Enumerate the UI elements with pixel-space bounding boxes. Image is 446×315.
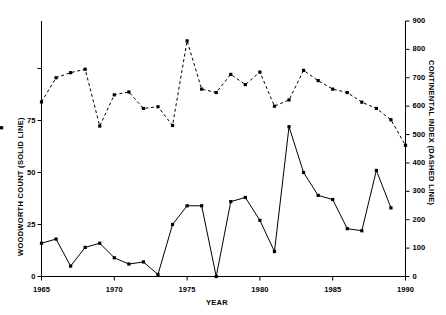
data-point-marker <box>360 101 363 104</box>
data-point-marker <box>171 223 174 226</box>
data-point-marker <box>244 196 247 199</box>
data-point-marker <box>389 206 392 209</box>
left-axis-title: WOODWORTH COUNT (SOLID LINE) <box>16 117 25 256</box>
bottom-tick-label: 1980 <box>244 285 276 294</box>
data-point-marker <box>375 107 378 110</box>
data-point-marker <box>404 144 407 147</box>
data-point-marker <box>302 69 305 72</box>
data-point-marker <box>287 125 290 128</box>
right-axis-ticks <box>406 21 410 277</box>
data-point-marker <box>360 229 363 232</box>
right-axis-title: CONTINENTAL INDEX (DASHED LINE) <box>427 60 436 205</box>
continental-index-line <box>42 41 406 145</box>
data-point-marker <box>40 100 43 103</box>
data-point-marker <box>258 219 261 222</box>
bottom-tick-label: 1990 <box>390 285 422 294</box>
data-point-marker <box>84 246 87 249</box>
data-point-marker <box>215 275 218 278</box>
data-point-marker <box>273 250 276 253</box>
data-point-marker <box>200 88 203 91</box>
data-point-marker <box>54 237 57 240</box>
data-point-marker <box>273 105 276 108</box>
data-point-marker <box>156 273 159 276</box>
data-point-marker <box>54 76 57 79</box>
data-point-marker <box>40 242 43 245</box>
right-tick-label: 0 <box>413 272 446 281</box>
data-point-marker <box>69 265 72 268</box>
data-point-marker <box>0 126 3 129</box>
bottom-tick-label: 1985 <box>317 285 349 294</box>
data-point-marker <box>215 91 218 94</box>
data-point-marker <box>287 98 290 101</box>
data-point-marker <box>346 227 349 230</box>
data-point-marker <box>302 171 305 174</box>
right-tick-label: 900 <box>413 16 446 25</box>
chart-plot-area <box>0 0 446 315</box>
data-point-marker <box>186 39 189 42</box>
data-point-marker <box>229 73 232 76</box>
data-point-marker <box>346 91 349 94</box>
data-point-marker <box>317 194 320 197</box>
bottom-tick-label: 1975 <box>171 285 203 294</box>
data-point-marker <box>389 118 392 121</box>
data-point-marker <box>84 68 87 71</box>
right-tick-label: 800 <box>413 44 446 53</box>
data-point-marker <box>244 83 247 86</box>
left-axis-ticks <box>38 69 42 277</box>
data-point-marker <box>142 260 145 263</box>
bottom-axis-ticks <box>42 277 406 281</box>
data-point-marker <box>258 71 261 74</box>
right-tick-label: 100 <box>413 243 446 252</box>
bottom-tick-label: 1970 <box>98 285 130 294</box>
data-point-marker <box>142 107 145 110</box>
data-point-marker <box>113 256 116 259</box>
left-tick-label: 0 <box>0 272 36 281</box>
data-point-marker <box>113 93 116 96</box>
data-point-marker <box>331 88 334 91</box>
data-point-marker <box>69 71 72 74</box>
data-point-marker <box>200 204 203 207</box>
series-woodworth-count <box>40 125 393 278</box>
data-point-marker <box>375 169 378 172</box>
data-point-marker <box>331 198 334 201</box>
woodworth-count-line <box>42 127 391 277</box>
right-tick-label: 200 <box>413 215 446 224</box>
bottom-axis-title: YEAR <box>206 298 228 307</box>
bottom-tick-label: 1965 <box>26 285 58 294</box>
chart-figure: 0255075010020030040050060070080090019651… <box>0 0 446 315</box>
data-point-marker <box>98 242 101 245</box>
data-point-marker <box>317 79 320 82</box>
data-point-marker <box>98 124 101 127</box>
data-point-marker <box>229 200 232 203</box>
data-point-marker <box>156 105 159 108</box>
series-continental-index <box>0 39 407 147</box>
data-point-marker <box>127 262 130 265</box>
data-point-marker <box>171 124 174 127</box>
data-point-marker <box>127 90 130 93</box>
data-point-marker <box>186 204 189 207</box>
